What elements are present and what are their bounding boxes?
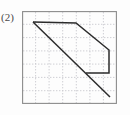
figure-number-label: (2) [1,11,14,23]
figure-container: (2) [0,0,130,115]
grid-box [22,11,117,104]
geometry-figure-svg [22,11,117,104]
